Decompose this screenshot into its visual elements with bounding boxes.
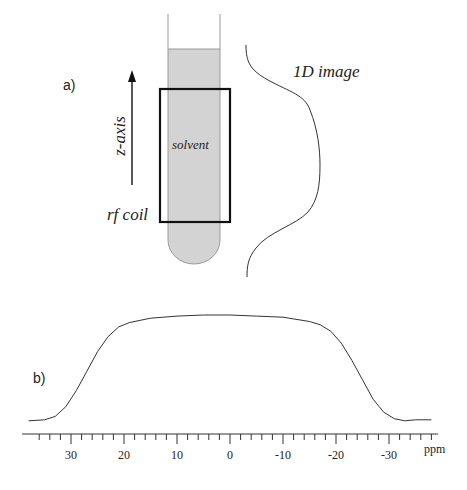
- solvent-fill: [168, 49, 220, 264]
- rf-coil-label: rf coil: [107, 205, 148, 225]
- solvent-label: solvent: [172, 137, 209, 153]
- ppm-tick-label: 30: [56, 448, 86, 463]
- ppm-tick-label: -10: [268, 448, 298, 463]
- ppm-axis-ticks: [39, 434, 431, 444]
- panel-b-label: b): [33, 370, 45, 386]
- ppm-tick-label: -30: [374, 448, 404, 463]
- spectrum-line: [29, 315, 432, 421]
- ppm-unit-label: ppm: [424, 442, 445, 457]
- z-axis-label: z-axis: [110, 108, 130, 164]
- 1d-image-label: 1D image: [293, 62, 360, 82]
- ppm-tick-label: 20: [109, 448, 139, 463]
- ppm-tick-label: 10: [162, 448, 192, 463]
- panel-a-label: a): [63, 77, 75, 93]
- ppm-tick-label: -20: [321, 448, 351, 463]
- ppm-tick-label: 0: [215, 448, 245, 463]
- figure-canvas: [0, 0, 467, 490]
